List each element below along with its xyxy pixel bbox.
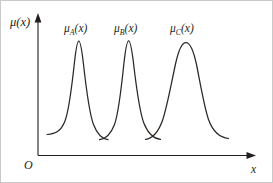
svg-text:μB(x): μB(x) <box>113 22 137 37</box>
curve-label-a-arg: (x) <box>75 22 88 35</box>
curve-label-c: μC(x) <box>169 22 194 37</box>
svg-text:μC(x): μC(x) <box>169 22 194 37</box>
curve-label-a: μA(x) <box>63 22 87 37</box>
x-axis-group <box>38 152 256 159</box>
curve-label-b: μB(x) <box>113 22 137 37</box>
svg-text:μA(x): μA(x) <box>63 22 87 37</box>
x-axis-label: x <box>250 163 257 175</box>
y-axis-arrowhead <box>35 13 42 23</box>
curve-mu-b <box>100 41 161 140</box>
y-axis-label: μ(x) <box>9 15 30 29</box>
curve-label-c-arg: (x) <box>181 22 194 35</box>
y-axis-group <box>35 13 42 156</box>
membership-function-plot: μ(x) μA(x) μB(x) μC(x) O x <box>0 0 273 183</box>
curve-mu-c <box>146 43 229 140</box>
x-axis-arrowhead <box>247 152 257 159</box>
curve-mu-a <box>47 41 108 140</box>
origin-label: O <box>24 158 33 172</box>
figure-container: μ(x) μA(x) μB(x) μC(x) O x <box>0 0 273 183</box>
curve-label-b-arg: (x) <box>125 22 138 35</box>
